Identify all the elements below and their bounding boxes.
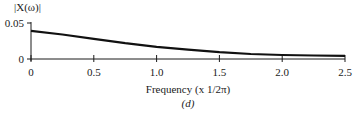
- x-tick-label: 0.5: [87, 66, 101, 78]
- y-axis-label: |X(ω)|: [14, 1, 41, 14]
- x-tick-label: 0: [28, 66, 34, 78]
- x-ticks: 00.51.01.52.02.5: [28, 55, 352, 78]
- x-tick-label: 1.0: [150, 66, 164, 78]
- figure-caption: (d): [182, 97, 195, 110]
- data-line: [31, 31, 345, 56]
- x-tick-label: 2.5: [338, 66, 352, 78]
- x-axis-label: Frequency (x 1/2π): [146, 83, 231, 96]
- x-tick-label: 1.5: [213, 66, 227, 78]
- x-tick-label: 2.0: [275, 66, 289, 78]
- chart: |X(ω)| 0.05 0 00.51.01.52.02.5 Frequency…: [0, 0, 353, 113]
- y-tick-label: 0: [19, 53, 25, 65]
- y-tick-label: 0.05: [5, 17, 25, 29]
